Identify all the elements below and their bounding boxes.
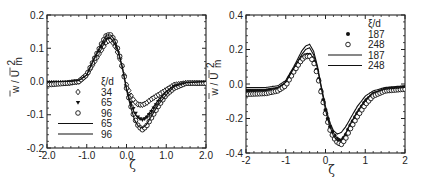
y-tick-label: 0.0 (30, 76, 44, 87)
legend-label: 96 (101, 108, 113, 119)
x-tick-label: -1 (281, 155, 290, 166)
y-axis-label: w / Um2 (6, 57, 24, 96)
y-tick-label: 0.2 (229, 44, 243, 55)
circle-open-marker (346, 42, 351, 47)
legend-label: 34 (101, 87, 113, 98)
y-axis-label-sup: 2 (6, 60, 17, 66)
plot-area (45, 33, 209, 132)
x-axis-label: ζ (129, 158, 136, 172)
y-tick-label: 0.0 (229, 79, 243, 90)
y-tick-label: -0.2 (226, 113, 244, 124)
y-axis-label: w / Um2 (205, 60, 223, 99)
y-tick-label: -0.2 (27, 143, 45, 154)
x-tick-label: 2.0 (199, 150, 213, 161)
legend-label: 65 (101, 118, 113, 129)
legend-label: 187 (368, 29, 385, 40)
y-tick-label: -0.4 (226, 148, 244, 159)
diamond-open-marker (76, 89, 80, 95)
x-tick-label: 1.0 (159, 150, 173, 161)
y-tick-label: 0.4 (229, 10, 243, 21)
right-chart-panel: -2-10120.40.20.0-0.2-0.4ζw / Um2ξ/d18724… (205, 10, 408, 178)
legend-label: 96 (101, 129, 113, 140)
x-tick-label: -1.0 (78, 150, 96, 161)
circle-open-marker (344, 136, 349, 141)
y-tick-label: -0.1 (27, 109, 45, 120)
legend-label: 65 (101, 97, 113, 108)
legend-label: 248 (368, 60, 385, 71)
legend: ξ/d187248187248 (328, 18, 385, 71)
y-axis-label-text: w / U (10, 70, 21, 94)
triangle-filled-marker (76, 101, 80, 105)
x-tick-label: 2 (402, 155, 408, 166)
series-line (47, 38, 206, 119)
x-tick-label: 1 (362, 155, 368, 166)
figure-canvas: -2.0-1.00.01.02.00.20.10.0-0.1-0.2ζw / U… (0, 0, 421, 177)
legend-label: 248 (368, 39, 385, 50)
circle-open-marker (76, 111, 81, 116)
legend-label: 187 (368, 50, 385, 61)
left-chart-panel: -2.0-1.00.01.02.00.20.10.0-0.1-0.2ζw / U… (6, 10, 213, 173)
y-tick-label: 0.2 (30, 10, 44, 21)
y-tick-label: 0.1 (30, 43, 44, 54)
x-axis-label: ζ (328, 163, 335, 177)
circle-filled-marker (346, 32, 350, 36)
y-axis-label-text: w / U (209, 73, 220, 97)
y-axis-label-sup: 2 (205, 62, 216, 68)
